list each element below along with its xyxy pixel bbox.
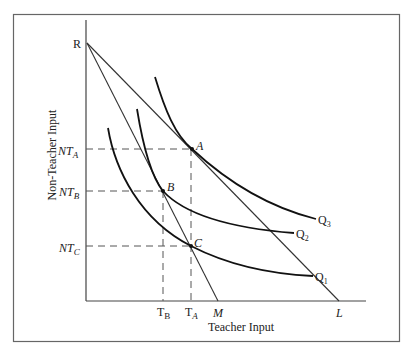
point-b-marker: [161, 189, 165, 193]
tick-nt-c: NTC: [58, 241, 81, 257]
tick-t-b: TB: [157, 305, 170, 321]
label-r: R: [73, 37, 81, 51]
isoquant-q3: [155, 77, 316, 219]
label-l: L: [335, 306, 343, 320]
tick-nt-a: NTA: [57, 144, 79, 160]
budget-line-rl: [87, 43, 339, 301]
dashed-guides: [86, 149, 192, 301]
label-q1: Q1: [315, 270, 328, 286]
tick-nt-b: NTB: [58, 185, 80, 201]
isoquant-q1: [108, 128, 313, 276]
label-point-a: A: [195, 139, 204, 153]
isoquant-diagram: R M L A B C NTA NTB NTC TB TA Q3 Q2 Q1 T…: [0, 0, 411, 358]
label-q3: Q3: [318, 213, 331, 229]
label-q2: Q2: [296, 227, 309, 243]
point-a-marker: [190, 147, 194, 151]
label-m: M: [212, 306, 224, 320]
label-point-c: C: [194, 236, 203, 250]
figure-frame: [14, 15, 400, 342]
point-c-marker: [189, 244, 193, 248]
y-axis-title: Non-Teacher Input: [45, 109, 59, 200]
label-point-b: B: [167, 180, 175, 194]
tick-t-a: TA: [185, 305, 198, 321]
x-axis-title: Teacher Input: [208, 320, 275, 334]
isoquant-q2: [137, 109, 294, 233]
